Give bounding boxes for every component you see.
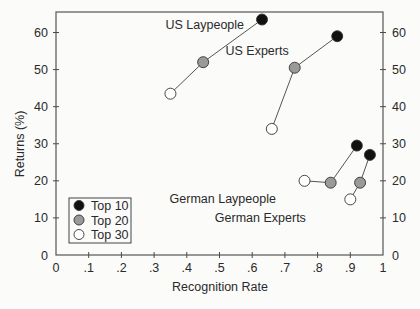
x-tick-label: .6 — [247, 261, 257, 275]
data-point — [257, 14, 268, 25]
x-tick-label: .4 — [182, 261, 192, 275]
x-tick-label: .2 — [116, 261, 126, 275]
legend-marker — [74, 201, 84, 211]
y-tick-label-right: 30 — [392, 137, 406, 151]
y-axis-label: Returns (%) — [13, 111, 27, 178]
y-tick-label-right: 60 — [392, 26, 406, 40]
x-tick-label: .7 — [280, 261, 290, 275]
x-tick-label: 1 — [380, 261, 387, 275]
data-point — [332, 31, 343, 42]
y-tick-label-left: 40 — [34, 100, 48, 114]
x-tick-label: .5 — [214, 261, 224, 275]
y-tick-label-left: 60 — [34, 26, 48, 40]
y-tick-label-right: 20 — [392, 174, 406, 188]
y-tick-label-right: 10 — [392, 211, 406, 225]
x-tick-label: .9 — [345, 261, 355, 275]
legend-label: Top 30 — [91, 228, 129, 242]
data-points — [165, 14, 375, 205]
scatter-chart: 0102030405060 0102030405060 0.1.2.3.4.5.… — [0, 0, 420, 309]
data-point — [198, 57, 209, 68]
y-tick-label-left: 50 — [34, 63, 48, 77]
legend-marker — [74, 215, 84, 225]
data-point — [364, 149, 375, 160]
legend-marker — [74, 230, 84, 240]
data-point — [289, 62, 300, 73]
y-axis-right: 0102030405060 — [380, 26, 406, 263]
legend-label: Top 20 — [91, 214, 129, 228]
legend-label: Top 10 — [91, 199, 129, 213]
x-tick-label: 0 — [53, 261, 60, 275]
y-tick-label-left: 20 — [34, 174, 48, 188]
y-tick-label-right: 40 — [392, 100, 406, 114]
y-tick-label-left: 0 — [41, 249, 48, 263]
x-tick-label: .8 — [312, 261, 322, 275]
data-point — [355, 177, 366, 188]
legend: Top 10Top 20Top 30 — [69, 198, 131, 243]
data-point — [345, 194, 356, 205]
x-tick-label: .3 — [149, 261, 159, 275]
data-point — [351, 140, 362, 151]
data-point — [165, 88, 176, 99]
data-point — [325, 177, 336, 188]
series-label: US Laypeople — [166, 18, 245, 32]
series-label: German Experts — [215, 211, 306, 225]
series-label: German Laypeople — [170, 192, 276, 206]
x-axis-label: Recognition Rate — [172, 280, 268, 294]
data-point — [266, 123, 277, 134]
data-point — [299, 175, 310, 186]
y-tick-label-right: 0 — [392, 249, 399, 263]
series-annotations: US LaypeopleUS ExpertsGerman LaypeopleGe… — [166, 18, 306, 225]
y-axis-left: 0102030405060 — [34, 26, 59, 263]
series-label: US Experts — [225, 44, 288, 58]
y-tick-label-left: 10 — [34, 211, 48, 225]
x-tick-label: .1 — [83, 261, 93, 275]
y-tick-label-left: 30 — [34, 137, 48, 151]
y-tick-label-right: 50 — [392, 63, 406, 77]
